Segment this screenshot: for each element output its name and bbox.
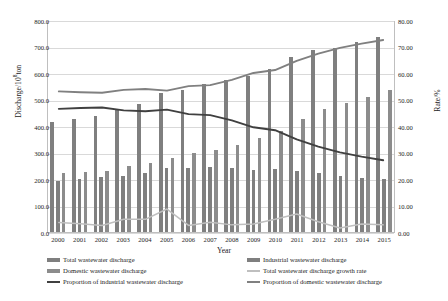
legend-bar-swatch-icon xyxy=(47,258,60,262)
y-axis-left-tick-label: 700.0 xyxy=(3,44,49,51)
plot-area xyxy=(47,21,395,233)
legend-item[interactable]: Domestic wastewater discharge xyxy=(47,267,146,275)
line-series-overlay xyxy=(48,21,394,232)
line-total-wastewater-discharge-growth-rate xyxy=(59,209,383,228)
y-axis-right-tick-label: 70.00 xyxy=(398,44,442,51)
legend-item-label: Total wastewater discharge growth rate xyxy=(263,267,366,275)
y-axis-right-tick-label: 0.00 xyxy=(398,230,442,237)
x-axis-tick-label: 2007 xyxy=(199,236,221,244)
legend-item[interactable]: Total wastewater discharge xyxy=(47,256,135,264)
y-axis-left-tick-label: 500.0 xyxy=(3,97,49,104)
legend-bar-swatch-icon xyxy=(47,269,60,273)
gridline xyxy=(48,233,394,234)
y-axis-right-tick-label: 20.00 xyxy=(398,177,442,184)
x-axis-tick-label: 2015 xyxy=(373,236,395,244)
x-axis-tick-label: 2001 xyxy=(69,236,91,244)
legend-item[interactable]: Total wastewater discharge growth rate xyxy=(247,267,366,275)
legend-line-swatch-icon xyxy=(247,270,260,272)
legend-item-label: Domestic wastewater discharge xyxy=(63,267,146,275)
x-axis-tick-label: 2010 xyxy=(265,236,287,244)
y-axis-right-tick-label: 30.00 xyxy=(398,150,442,157)
legend-item[interactable]: Proportion of domestic wastewater discha… xyxy=(247,278,382,286)
x-axis-tick-label: 2000 xyxy=(47,236,69,244)
y-axis-left-tick-label: 100.0 xyxy=(3,203,49,210)
line-proportion-of-industrial-wastewater-discharge xyxy=(59,108,383,161)
x-axis-tick-label: 2005 xyxy=(156,236,178,244)
y-axis-left-tick-label: 0.0 xyxy=(3,230,49,237)
y-axis-right-tick-label: 60.00 xyxy=(398,71,442,78)
y-axis-left-tick-label: 200.0 xyxy=(3,177,49,184)
legend-item-label: Industrial wastewater discharge xyxy=(263,256,346,264)
y-axis-right-tick-label: 50.00 xyxy=(398,97,442,104)
x-axis-tick-label: 2008 xyxy=(221,236,243,244)
y-axis-left-tick-label: 300.0 xyxy=(3,150,49,157)
legend-item[interactable]: Industrial wastewater discharge xyxy=(247,256,346,264)
x-axis-tick-label: 2004 xyxy=(134,236,156,244)
x-axis-tick-label: 2009 xyxy=(243,236,265,244)
x-axis-tick-label: 2012 xyxy=(308,236,330,244)
x-axis-tick-label: 2011 xyxy=(286,236,308,244)
x-axis-tick-label: 2014 xyxy=(352,236,374,244)
legend-item[interactable]: Proportion of industrial wastewater disc… xyxy=(47,278,183,286)
legend-item-label: Proportion of industrial wastewater disc… xyxy=(63,278,183,286)
line-proportion-of-domestic-wastewater-discharge xyxy=(59,40,383,93)
y-axis-left-tick-label: 600.0 xyxy=(3,71,49,78)
x-axis-tick-label: 2003 xyxy=(112,236,134,244)
legend-line-swatch-icon xyxy=(247,281,260,283)
y-axis-left-tick-label: 800.0 xyxy=(3,18,49,25)
y-axis-left-tick-label: 400.0 xyxy=(3,124,49,131)
legend-bar-swatch-icon xyxy=(247,258,260,262)
chart-legend: Total wastewater dischargeIndustrial was… xyxy=(47,256,439,296)
x-axis-tick-label: 2013 xyxy=(330,236,352,244)
y-axis-right-tick-label: 40.00 xyxy=(398,124,442,131)
y-axis-right-tick-label: 80.00 xyxy=(398,18,442,25)
x-axis-title: Year xyxy=(0,246,448,255)
x-axis-tick-label: 2006 xyxy=(178,236,200,244)
wastewater-discharge-chart: Discharge/108ton Rate/% 0.0100.0200.0300… xyxy=(0,0,448,301)
legend-item-label: Proportion of domestic wastewater discha… xyxy=(263,278,382,286)
y-axis-right-tick-label: 10.00 xyxy=(398,203,442,210)
x-axis-tick-label: 2002 xyxy=(91,236,113,244)
legend-line-swatch-icon xyxy=(47,281,60,283)
legend-item-label: Total wastewater discharge xyxy=(63,256,135,264)
